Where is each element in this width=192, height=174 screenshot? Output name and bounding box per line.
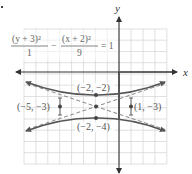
- y-axis-label: y: [114, 2, 120, 14]
- equation-denominator-right: 9: [77, 48, 82, 58]
- bullet-mark: [1, 6, 3, 8]
- label-covertex-right: (1, −3): [134, 101, 161, 113]
- x-axis-label: x: [182, 66, 188, 78]
- point-covertex-left: [58, 105, 62, 109]
- label-vertex-top: (−2, −2): [77, 82, 110, 94]
- label-covertex-left: (−5, −3): [17, 101, 50, 113]
- label-vertex-bottom: (−2, −4): [77, 121, 110, 133]
- point-center: [94, 105, 98, 109]
- point-vertex-top: [94, 93, 98, 97]
- hyperbola-graph: x y (−2, −2) (−5, −3) (1, −3) (−2, −4) (…: [0, 0, 192, 174]
- equation-numerator-left: (y + 3)²: [12, 34, 41, 45]
- equation-equals: = 1: [101, 41, 114, 51]
- point-vertex-bottom: [94, 116, 98, 120]
- equation-numerator-right: (x + 2)²: [62, 34, 91, 45]
- equation-minus: −: [51, 41, 56, 51]
- equation-denominator-left: 1: [27, 48, 32, 58]
- point-covertex-right: [129, 105, 133, 109]
